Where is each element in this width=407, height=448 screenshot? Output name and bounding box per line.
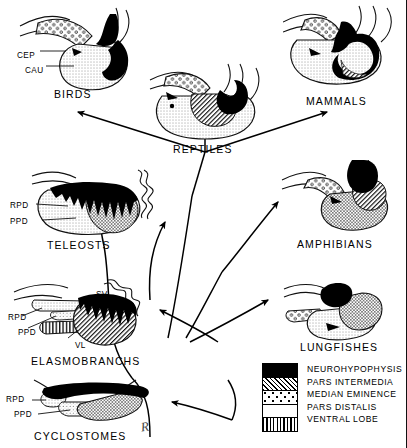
figure-reptiles — [148, 62, 273, 144]
caption-amphibians: AMPHIBIANS — [297, 238, 373, 250]
legend-label-median-eminence: MEDIAN EMINENCE — [307, 388, 402, 401]
figure-elasmobranchs — [8, 278, 173, 354]
tree-branch-to-node — [192, 152, 205, 196]
legend-label-column: NEUROHYPOPHYSIS PARS INTERMEDIA MEDIAN E… — [307, 363, 402, 426]
caption-cyclostomes: CYCLOSTOMES — [34, 430, 126, 442]
label-teleosts-ppd: PPD — [10, 217, 28, 226]
label-birds-cau: CAU — [25, 66, 44, 75]
figure-cyclostomes — [18, 378, 178, 430]
legend-swatch-median-eminence — [263, 391, 297, 405]
legend-label-pars-intermedia: PARS INTERMEDIA — [307, 376, 402, 389]
caption-lungfishes: LUNGFISHES — [300, 341, 378, 353]
label-elasmobranchs-sv: SV — [96, 290, 108, 299]
label-teleosts-rpd: RPD — [10, 201, 29, 210]
label-elasmobranchs-rpd: RPD — [8, 313, 27, 322]
caption-reptiles: REPTILES — [173, 143, 233, 155]
reptiles-marker-dot — [170, 104, 174, 108]
caption-teleosts: TELEOSTS — [47, 239, 111, 251]
legend-swatch-pars-distalis — [263, 405, 297, 419]
legend-label-pars-distalis: PARS DISTALIS — [307, 401, 402, 414]
legend-label-ventral-lobe: VENTRAL LOBE — [307, 413, 402, 426]
diagram-canvas: CEP CAU BIRDS REPTILES — [0, 0, 407, 448]
label-elasmobranchs-ppd: PPD — [18, 328, 36, 337]
legend-label-neurohypophysis: NEUROHYPOPHYSIS — [307, 363, 402, 376]
caption-elasmobranchs: ELASMOBRANCHS — [31, 355, 140, 367]
label-cyclostomes-rpd: RPD — [6, 395, 25, 404]
label-elasmobranchs-vl: VL — [75, 341, 86, 350]
caption-birds: BIRDS — [54, 88, 92, 100]
cyclostomes-pars-distalis — [77, 393, 142, 420]
tree-arrow-cyclostomes — [172, 402, 232, 420]
figure-mammals — [283, 4, 407, 94]
mammals-median-eminence — [301, 18, 341, 42]
legend-swatch-pars-intermedia — [263, 378, 297, 392]
tree-branch-cyclo-base — [228, 380, 235, 420]
figure-lungfishes — [282, 283, 407, 345]
tree-arrow-lungfishes — [190, 300, 268, 342]
legend-swatch-ventral-lobe — [263, 418, 297, 431]
figure-amphibians — [280, 160, 407, 236]
figure-teleosts — [30, 168, 170, 240]
legend: NEUROHYPOPHYSIS PARS INTERMEDIA MEDIAN E… — [262, 363, 402, 432]
legend-swatch-column — [262, 363, 298, 432]
birds-median-eminence — [36, 19, 92, 48]
caption-mammals: MAMMALS — [306, 95, 367, 107]
amphibians-neurohypophysis — [347, 160, 378, 193]
label-cyclostomes-ppd: PPD — [14, 410, 32, 419]
label-birds-cep: CEP — [17, 51, 35, 60]
tree-arrow-amphibians — [222, 202, 278, 272]
legend-swatch-neurohypophysis — [263, 364, 297, 378]
